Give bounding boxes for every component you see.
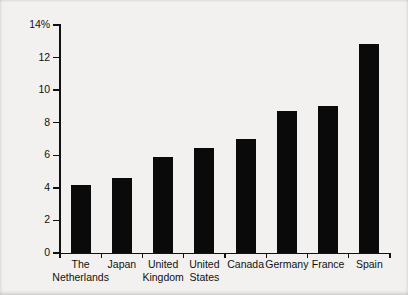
plot-area: [60, 25, 390, 253]
bar: [236, 139, 256, 253]
y-axis-tick: [53, 155, 60, 156]
y-axis-tick-label: 8: [0, 116, 50, 128]
y-axis-tick-label: 14%: [0, 18, 50, 30]
bar: [359, 44, 379, 253]
bar: [71, 185, 91, 253]
x-axis-category-label: Spain: [335, 258, 404, 271]
category-label-line: Spain: [335, 258, 404, 271]
bar: [153, 157, 173, 253]
y-axis-tick-label: 2: [0, 213, 50, 225]
category-label-line: Netherlands: [46, 271, 115, 284]
category-label-line: States: [170, 271, 239, 284]
bar: [112, 178, 132, 253]
y-axis-tick-label: 12: [0, 51, 50, 63]
y-axis-tick-label: 0: [0, 246, 50, 258]
bar: [194, 148, 214, 253]
y-axis-tick: [53, 187, 60, 188]
chart-figure: Unemployment rate 02468101214% TheNether…: [0, 0, 408, 295]
y-axis-tick: [53, 220, 60, 221]
y-axis-tick-label: 6: [0, 148, 50, 160]
y-axis-tick: [53, 89, 60, 90]
y-axis-tick: [53, 24, 60, 25]
y-axis-tick-label: 10: [0, 83, 50, 95]
bar: [277, 111, 297, 253]
y-axis-tick-label: 4: [0, 181, 50, 193]
y-axis-tick: [53, 122, 60, 123]
bar: [318, 106, 338, 253]
y-axis-tick: [53, 57, 60, 58]
